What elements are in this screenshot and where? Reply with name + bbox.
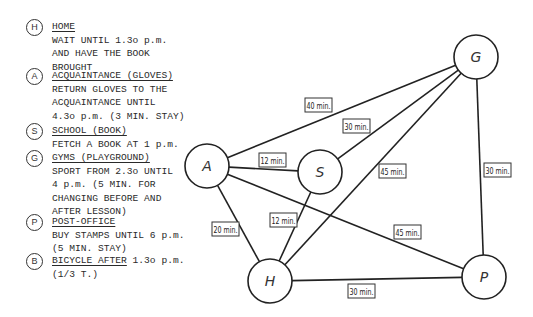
node-h: H (248, 259, 292, 303)
svg-text:45 min.: 45 min. (381, 167, 405, 177)
edge-label-h-p: 30 min. (348, 284, 375, 298)
nodes: ASGHP (185, 35, 506, 303)
edge-a-p (227, 174, 463, 269)
svg-text:12 min.: 12 min. (272, 216, 296, 226)
svg-text:P: P (480, 269, 489, 285)
edge-label-a-s: 12 min. (259, 153, 286, 167)
edge-label-a-g: 40 min. (305, 98, 332, 112)
edge-label-a-p: 45 min. (394, 225, 421, 239)
svg-text:45 min.: 45 min. (396, 228, 420, 238)
svg-text:20 min.: 20 min. (214, 225, 238, 235)
svg-text:G: G (471, 49, 482, 65)
edge-label-a-h: 20 min. (212, 222, 239, 236)
edges (218, 65, 484, 280)
svg-text:30 min.: 30 min. (486, 166, 510, 176)
route-graph: ASGHP 40 min.30 min.12 min.45 min.30 min… (0, 0, 533, 317)
edge-label-h-g: 45 min. (379, 164, 406, 178)
svg-text:40 min.: 40 min. (307, 101, 331, 111)
svg-text:S: S (316, 164, 325, 180)
node-s: S (298, 150, 342, 194)
svg-text:30 min.: 30 min. (345, 122, 369, 132)
node-p: P (462, 255, 506, 299)
node-g: G (454, 35, 498, 79)
svg-text:12 min.: 12 min. (261, 156, 285, 166)
edge-g-p (477, 79, 483, 255)
edge-a-g (227, 65, 455, 157)
edge-label-g-p: 30 min. (484, 163, 511, 177)
node-a: A (185, 144, 229, 188)
edge-a-s (229, 167, 298, 171)
edge-s-g (338, 70, 459, 159)
svg-text:H: H (265, 273, 276, 289)
edge-label-s-g: 30 min. (343, 119, 370, 133)
edge-h-p (292, 277, 462, 280)
edge-label-s-h: 12 min. (270, 213, 297, 227)
svg-text:A: A (201, 158, 212, 174)
svg-text:30 min.: 30 min. (350, 287, 374, 297)
